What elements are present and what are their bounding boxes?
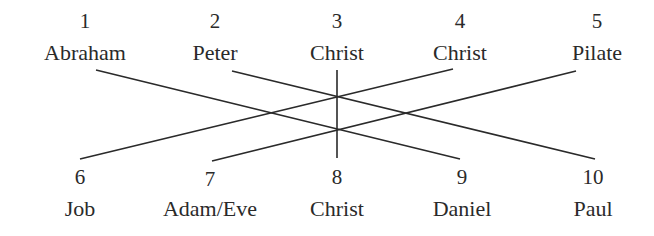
- top-number-2: 2: [210, 9, 221, 34]
- line-christ-job: [80, 69, 453, 159]
- line-abraham-daniel: [96, 70, 460, 159]
- bottom-number-9: 9: [457, 165, 468, 190]
- bottom-name-paul: Paul: [573, 196, 612, 222]
- top-name-christ-3: Christ: [310, 40, 364, 66]
- bottom-name-daniel: Daniel: [433, 196, 492, 222]
- top-number-5: 5: [592, 9, 603, 34]
- bottom-name-job: Job: [65, 196, 96, 222]
- bottom-number-6: 6: [75, 165, 86, 190]
- top-number-1: 1: [80, 9, 91, 34]
- bottom-number-10: 10: [583, 165, 604, 190]
- bottom-number-8: 8: [332, 165, 343, 190]
- bottom-name-christ-8: Christ: [310, 196, 364, 222]
- top-name-pilate: Pilate: [572, 40, 622, 66]
- bottom-name-adam-eve: Adam/Eve: [163, 196, 257, 222]
- top-name-peter: Peter: [192, 40, 237, 66]
- bottom-number-7: 7: [205, 167, 216, 192]
- top-name-abraham: Abraham: [44, 40, 126, 66]
- top-number-4: 4: [455, 9, 466, 34]
- line-peter-paul: [232, 71, 595, 159]
- top-name-christ-4: Christ: [433, 40, 487, 66]
- line-pilate-adameve: [212, 71, 576, 161]
- top-number-3: 3: [332, 9, 343, 34]
